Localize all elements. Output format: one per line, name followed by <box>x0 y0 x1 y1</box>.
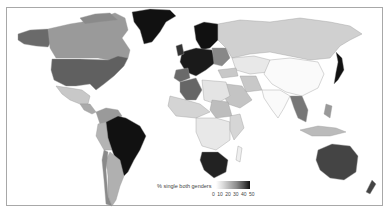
region-philippines[interactable] <box>324 104 332 118</box>
legend-tick: 30 <box>233 191 239 197</box>
region-russia[interactable] <box>218 18 362 60</box>
region-greenland[interactable] <box>132 9 176 44</box>
region-eastern-europe[interactable] <box>212 48 230 66</box>
legend-tick: 0 <box>212 191 215 197</box>
legend-tick: 40 <box>241 191 247 197</box>
legend-ticks: 0 10 20 30 40 50 <box>212 191 256 197</box>
region-madagascar[interactable] <box>236 146 242 162</box>
legend-tick: 10 <box>217 191 223 197</box>
region-usa[interactable] <box>51 56 128 90</box>
region-east-africa[interactable] <box>230 114 244 140</box>
region-uk[interactable] <box>176 44 184 56</box>
region-turkey[interactable] <box>218 68 238 78</box>
legend-tick: 50 <box>249 191 255 197</box>
region-alaska[interactable] <box>18 29 52 47</box>
region-south-africa[interactable] <box>200 152 228 178</box>
region-australia[interactable] <box>316 144 358 180</box>
legend-tick: 20 <box>225 191 231 197</box>
region-central-asia[interactable] <box>232 56 270 74</box>
region-thailand-myanmar[interactable] <box>290 96 308 122</box>
region-algeria[interactable] <box>180 78 202 100</box>
region-indonesia[interactable] <box>300 126 346 136</box>
region-scandinavia[interactable] <box>194 22 218 50</box>
region-central-america[interactable] <box>80 104 96 114</box>
region-india[interactable] <box>262 90 290 118</box>
region-japan[interactable] <box>334 52 344 84</box>
world-map <box>0 0 389 214</box>
legend-title: % single both genders <box>157 183 211 189</box>
region-mexico[interactable] <box>56 86 90 104</box>
region-new-zealand[interactable] <box>366 180 376 194</box>
legend-color-scale <box>216 181 250 189</box>
region-central-africa[interactable] <box>196 118 230 150</box>
